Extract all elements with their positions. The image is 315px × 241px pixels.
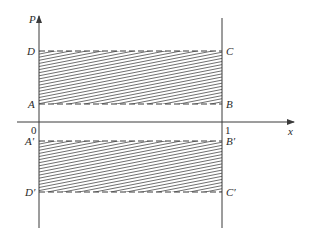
x-axis-label: x bbox=[288, 126, 293, 137]
point-C-label: C bbox=[226, 46, 233, 57]
lower-region-hatching bbox=[39, 105, 222, 231]
point-D-label: D bbox=[27, 46, 35, 57]
point-B-prime-label: B′ bbox=[226, 136, 235, 147]
diagram-graphic bbox=[0, 0, 315, 241]
y-axis-label: P bbox=[29, 14, 36, 25]
point-B-label: B bbox=[226, 99, 233, 110]
diagram-canvas: P x 0 1 D C A B A′ B′ D′ C′ bbox=[0, 0, 315, 241]
point-A-prime-label: A′ bbox=[25, 136, 34, 147]
point-D-prime-label: D′ bbox=[25, 187, 35, 198]
point-C-prime-label: C′ bbox=[226, 187, 236, 198]
point-A-label: A bbox=[28, 99, 35, 110]
